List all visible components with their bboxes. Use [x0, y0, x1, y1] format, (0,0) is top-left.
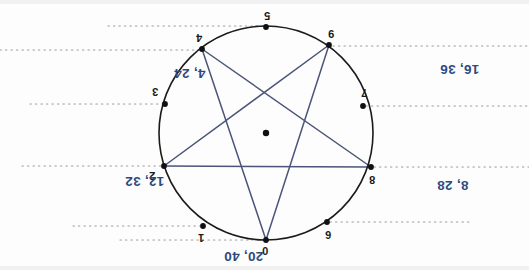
circle-point-9[interactable]: [326, 42, 332, 48]
point-label-8: 8: [364, 174, 380, 185]
point-label-1: 1: [193, 232, 209, 243]
star-edge-2-to-9: [164, 45, 329, 166]
circle-point-1[interactable]: [200, 223, 206, 229]
circle-point-2[interactable]: [161, 163, 167, 169]
class-label-12-32: 12, 32: [125, 174, 164, 188]
circle-point-3[interactable]: [162, 101, 168, 107]
point-label-6: 6: [320, 229, 336, 240]
star-edge-4-to-8: [202, 49, 371, 167]
circle-point-4[interactable]: [199, 46, 205, 52]
star-edge-9-to-0: [266, 45, 329, 240]
point-label-7: 7: [356, 87, 372, 98]
circle-point-6[interactable]: [324, 219, 330, 225]
point-label-5: 5: [259, 10, 275, 21]
star-edge-0-to-4: [202, 49, 266, 240]
diagram-canvas: 0123456789 4, 2416, 3612, 328, 2820, 40: [0, 0, 529, 270]
class-label-8-28: 8, 28: [437, 178, 469, 192]
class-label-20-40: 20, 40: [224, 249, 263, 263]
star-edge-8-to-2: [164, 166, 371, 167]
circle-point-0[interactable]: [263, 237, 269, 243]
point-label-4: 4: [191, 32, 207, 43]
circle-diagram: [0, 0, 529, 270]
circle-point-8[interactable]: [368, 164, 374, 170]
circle-point-7[interactable]: [360, 103, 366, 109]
class-label-16-36: 16, 36: [440, 62, 479, 76]
circle-point-5[interactable]: [263, 24, 269, 30]
point-label-3: 3: [147, 86, 163, 97]
point-label-9: 9: [323, 28, 339, 39]
circle-center-dot: [263, 130, 269, 136]
class-label-4-24: 4, 24: [174, 66, 206, 80]
